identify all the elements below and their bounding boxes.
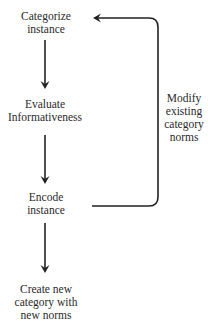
feedback-label-line: existing (162, 105, 206, 118)
node-label-line: instance (18, 204, 74, 217)
node-categorize-instance: Categorize instance (18, 10, 74, 36)
node-label-line: Categorize (18, 10, 74, 23)
node-label-line: category with (6, 296, 86, 309)
feedback-label-line: norms (162, 131, 206, 144)
node-create-new-category: Create new category with new norms (6, 283, 86, 322)
node-label-line: Encode (18, 191, 74, 204)
arrow-encode-to-create (41, 223, 50, 273)
node-evaluate-informativeness: Evaluate Informativeness (0, 98, 90, 124)
node-label-line: Create new (6, 283, 86, 296)
node-label-line: Informativeness (0, 111, 90, 124)
node-label-line: new norms (6, 309, 86, 322)
feedback-label-modify-norms: Modify existing category norms (162, 92, 206, 144)
feedback-label-line: Modify (162, 92, 206, 105)
arrow-categorize-to-evaluate (41, 40, 50, 89)
arrow-evaluate-to-encode (41, 135, 50, 184)
node-label-line: instance (18, 23, 74, 36)
node-encode-instance: Encode instance (18, 191, 74, 217)
node-label-line: Evaluate (0, 98, 90, 111)
feedback-label-line: category (162, 118, 206, 131)
feedback-loop-arrow (92, 14, 158, 207)
